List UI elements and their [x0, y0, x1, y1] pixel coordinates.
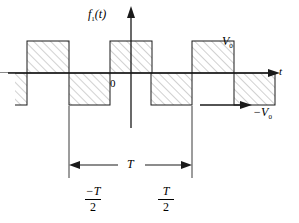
square-wave-figure: f1(t) t V0 −V0 0 T −T 2 T 2 — [0, 0, 299, 223]
y-axis-arrow — [127, 6, 135, 18]
fraction-denominator: 2 — [75, 201, 111, 214]
tick-label-plus-half-period: T 2 — [148, 185, 184, 213]
fraction-numerator: T — [148, 185, 184, 198]
positive-amplitude-label: V0 — [222, 35, 233, 50]
fraction-numerator: −T — [75, 185, 111, 198]
origin-label: 0 — [110, 78, 116, 89]
negative-amplitude-label: −V0 — [253, 106, 272, 121]
left-crop-mask — [0, 73, 14, 106]
negative-pulse-1 — [69, 73, 110, 105]
period-arrow-left — [69, 161, 80, 169]
negative-pulse-2 — [151, 73, 192, 105]
positive-pulse-1 — [27, 41, 69, 73]
period-label: T — [127, 158, 134, 170]
fraction-denominator: 2 — [148, 201, 184, 214]
y-axis-label: f1(t) — [88, 8, 106, 23]
tick-label-minus-half-period: −T 2 — [75, 185, 111, 213]
x-axis-label: t — [279, 66, 282, 77]
negative-pulse-3 — [234, 73, 275, 105]
period-arrow-right — [181, 161, 192, 169]
negative-pulses — [0, 73, 275, 105]
